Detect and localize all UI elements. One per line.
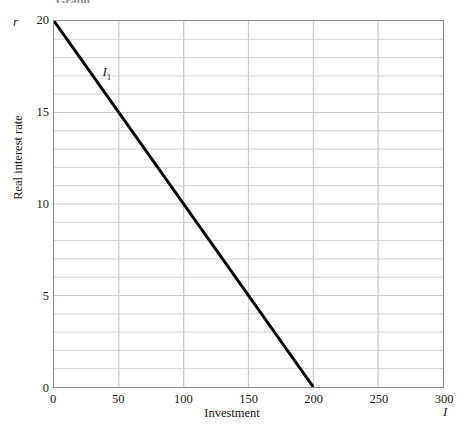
x-tick-label: 150 [239,392,258,406]
y-tick-label: 10 [23,198,49,210]
x-tick-label: 50 [112,392,125,406]
y-axis-title: Real interest rate [11,88,26,228]
x-tick-label: 200 [304,392,323,406]
gridlines [54,21,443,387]
x-tick-label: 100 [174,392,193,406]
plot-canvas [54,21,443,387]
y-tick-label: 5 [23,290,49,302]
x-tick-label: 300 [435,392,454,406]
chart-title-cropped: Graph [56,0,206,3]
curve-label-i1: I1 [103,64,112,82]
investment-demand-chart: Graph r I 05101520 050100150200250300 In… [0,0,464,429]
x-tick-label: 250 [369,392,388,406]
x-tick-label: 0 [50,392,56,406]
plot-area [53,20,444,388]
y-tick-label: 20 [23,14,49,26]
x-axis-title: Investment [0,406,464,421]
y-tick-label: 15 [23,106,49,118]
curve-label-subscript: 1 [107,71,112,81]
